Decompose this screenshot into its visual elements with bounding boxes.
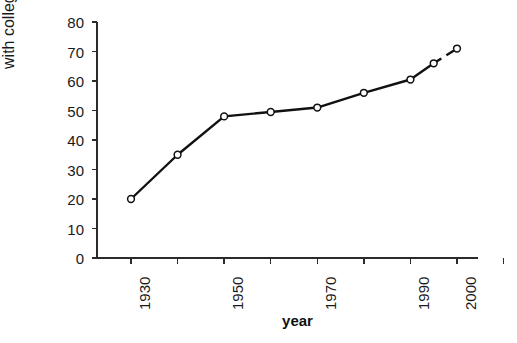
y-tick-label: 40	[42, 133, 84, 148]
y-tick-label: 60	[42, 74, 84, 89]
data-point-marker	[128, 196, 135, 203]
axis-lines	[97, 22, 478, 258]
x-tick-label: 1950	[230, 277, 245, 310]
y-tick-label: 30	[42, 162, 84, 177]
data-point-marker	[407, 76, 414, 83]
axes	[97, 22, 478, 258]
x-axis-title: year	[0, 313, 517, 329]
data-point-marker	[221, 113, 228, 120]
data-markers	[128, 45, 461, 202]
y-tick-label: 80	[42, 15, 84, 30]
data-line	[131, 49, 457, 199]
x-tick-label: 1970	[323, 277, 338, 310]
y-tick-label: 20	[42, 192, 84, 207]
data-point-marker	[360, 89, 367, 96]
y-tick-label: 0	[42, 251, 84, 266]
y-tick-label: 10	[42, 221, 84, 236]
y-tick-label: 70	[42, 44, 84, 59]
y-axis-title-line-2: with college degree	[0, 0, 18, 259]
y-axis-title: percent population with college degree	[0, 0, 18, 259]
data-point-marker	[454, 45, 461, 52]
chart-figure: percent population with college degree y…	[0, 0, 517, 343]
x-tick-label: 1930	[137, 277, 152, 310]
y-tick-label: 50	[42, 103, 84, 118]
data-point-marker	[267, 109, 274, 116]
x-tick-label: 1990	[416, 277, 431, 310]
series-line-solid	[131, 63, 434, 199]
x-axis-ticks	[131, 258, 504, 264]
data-point-marker	[174, 151, 181, 158]
data-point-marker	[430, 60, 437, 67]
data-point-marker	[314, 104, 321, 111]
x-tick-label: 2000	[463, 277, 478, 310]
